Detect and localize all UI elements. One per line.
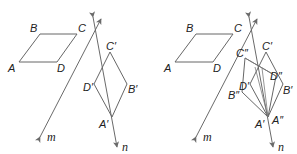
label-a2: A″ [271, 114, 284, 126]
reflection-diagram: A B C D m n A′ B′ C′ D′ A B C D m n A′ B… [0, 0, 297, 154]
label-b1: B′ [128, 83, 138, 95]
parallelogram-abcd [19, 34, 77, 62]
label-a1: A′ [98, 118, 109, 130]
parallelogram-abcd [175, 34, 233, 62]
label-d: D [213, 62, 221, 74]
parallelogram-a1b1c1d1 [94, 52, 127, 117]
line-m [196, 19, 257, 137]
left-panel: A B C D m n A′ B′ C′ D′ [7, 17, 138, 154]
label-c1: C′ [106, 40, 117, 52]
label-c2: C″ [236, 47, 249, 59]
label-a: A [7, 62, 15, 74]
label-b1: B′ [283, 84, 293, 96]
label-b: B [30, 22, 37, 34]
label-a1: A′ [254, 118, 265, 130]
label-m: m [47, 130, 56, 144]
label-m: m [203, 130, 212, 144]
label-c1: C′ [262, 40, 273, 52]
label-b2: B″ [228, 89, 240, 101]
label-a: A [163, 62, 171, 74]
ray-a-c1 [255, 67, 268, 117]
label-n: n [122, 140, 128, 154]
label-d1: D′ [239, 80, 250, 92]
label-b: B [186, 22, 193, 34]
label-d2: D″ [270, 70, 283, 82]
label-c: C [78, 22, 86, 34]
right-panel: A B C D m n A′ B′ C′ D′ A″ B″ C″ D″ [163, 17, 293, 154]
line-m [40, 19, 101, 137]
label-d: D [57, 62, 65, 74]
label-n: n [278, 140, 284, 154]
label-d1: D′ [83, 81, 94, 93]
label-c: C [234, 22, 242, 34]
